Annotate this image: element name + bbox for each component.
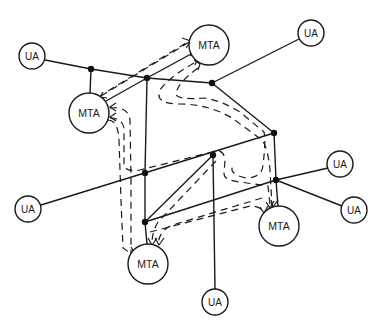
junction-G bbox=[273, 177, 279, 183]
node-mta-right: MTA bbox=[259, 206, 299, 246]
node-ua-right-lower: UA bbox=[341, 197, 367, 223]
node-label: MTA bbox=[137, 258, 158, 270]
link-H-to-mta-bottom bbox=[145, 222, 147, 244]
junction-H bbox=[142, 219, 148, 225]
node-label: UA bbox=[333, 159, 347, 170]
node-mta-left: MTA bbox=[69, 93, 109, 133]
link-G-to-ua-right-upper bbox=[276, 168, 328, 180]
junction-E bbox=[142, 170, 148, 176]
junction-B bbox=[144, 75, 150, 81]
node-ua-top-left: UA bbox=[19, 43, 45, 69]
node-mta-bottom: MTA bbox=[128, 244, 168, 284]
link-B-to-mta-top bbox=[147, 54, 191, 78]
route-left-to-mta-right-lower bbox=[150, 206, 264, 232]
route-mta-top-to-mta-right-inner bbox=[176, 68, 265, 178]
message-routes bbox=[101, 41, 272, 260]
link-B-to-E bbox=[145, 78, 147, 173]
link-H-to-F bbox=[145, 155, 213, 222]
junction-F bbox=[210, 152, 216, 158]
route-mta-left-to-mta-bottom-outer bbox=[110, 108, 138, 260]
arrow-into-mta-left-right-1 bbox=[110, 103, 116, 111]
arrow-into-mta-left-right-2 bbox=[110, 113, 116, 121]
link-G-to-ua-right-lower bbox=[276, 180, 342, 206]
node-label: MTA bbox=[268, 220, 289, 232]
link-ua-left-to-D bbox=[41, 133, 274, 205]
network-diagram: UA MTA UA MTA UA UA UA MTA MTA UA bbox=[0, 0, 387, 330]
link-A-to-mta-left bbox=[90, 69, 91, 93]
node-mta-top: MTA bbox=[189, 25, 229, 65]
junctions bbox=[88, 66, 279, 225]
node-ua-bottom: UA bbox=[202, 289, 228, 315]
node-label: MTA bbox=[78, 107, 99, 119]
route-mta-left-loop-down bbox=[108, 120, 133, 255]
node-label: UA bbox=[25, 51, 39, 62]
link-D-to-G bbox=[274, 133, 276, 180]
link-F-to-ua-bottom bbox=[213, 155, 215, 289]
node-label: UA bbox=[304, 28, 318, 39]
node-ua-left: UA bbox=[15, 196, 41, 222]
junction-C bbox=[209, 80, 215, 86]
link-B-to-C bbox=[147, 78, 212, 83]
node-label: UA bbox=[347, 205, 361, 216]
links bbox=[41, 39, 342, 289]
node-label: MTA bbox=[198, 39, 219, 51]
route-mta-left-to-mta-right bbox=[110, 118, 270, 205]
junction-D bbox=[271, 130, 277, 136]
node-label: UA bbox=[21, 204, 35, 215]
link-C-to-D bbox=[212, 83, 274, 133]
node-label: UA bbox=[208, 297, 222, 308]
junction-A bbox=[88, 66, 94, 72]
link-ua-top-left-to-A bbox=[45, 60, 91, 69]
route-mta-top-to-mta-right-outer bbox=[159, 63, 272, 206]
link-A-to-B bbox=[91, 69, 147, 78]
node-ua-right-upper: UA bbox=[327, 151, 353, 177]
node-ua-top-right: UA bbox=[298, 20, 324, 46]
